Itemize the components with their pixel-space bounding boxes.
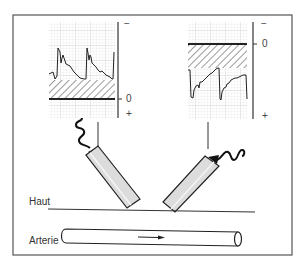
right-hatched-band <box>188 44 247 68</box>
left-ultrasound-probe <box>76 118 140 208</box>
right-axis-minus-label: − <box>261 19 267 29</box>
skin-line <box>48 209 255 212</box>
left-hatched-band <box>49 80 115 99</box>
left-probe-cable-icon <box>76 118 90 148</box>
right-axis-plus-label: + <box>262 111 268 121</box>
left-axis-minus-label: − <box>124 19 130 29</box>
left-probe-body <box>86 146 140 208</box>
right-axis-zero-label: 0 <box>262 39 268 49</box>
skin-label: Haut <box>29 197 50 207</box>
flow-arrow-icon <box>138 237 158 238</box>
artery-tube <box>62 229 242 246</box>
right-doppler-chart <box>188 22 257 119</box>
left-axis-zero-label: 0 <box>126 94 132 104</box>
left-axis-plus-label: + <box>126 109 132 119</box>
doppler-diagram: − 0 + − 0 + Haut Arterie <box>0 0 303 268</box>
right-probe-body <box>163 156 219 212</box>
artery-label: Arterie <box>29 236 58 246</box>
right-ultrasound-probe <box>163 150 244 212</box>
right-probe-cable-icon <box>217 150 244 160</box>
left-doppler-chart <box>49 22 122 118</box>
